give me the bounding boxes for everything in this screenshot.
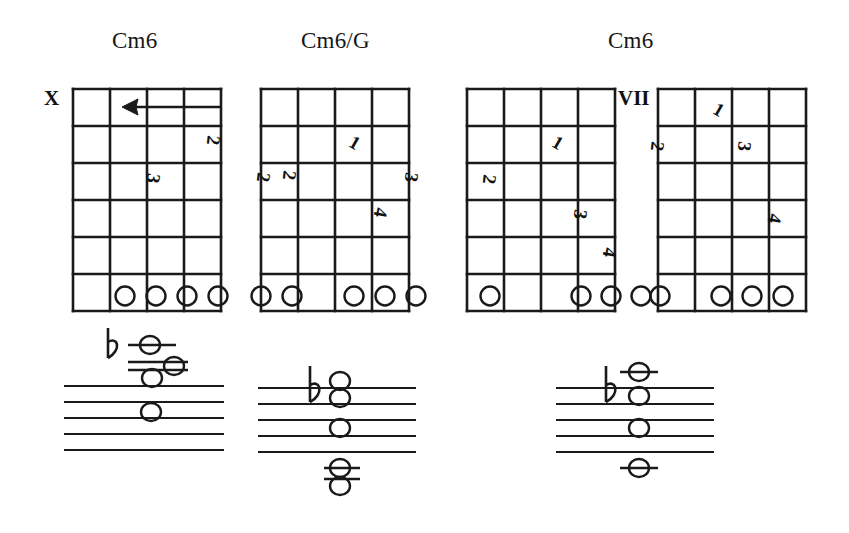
chord-title-1: Cm6 [112, 28, 157, 54]
chord-title-2: Cm6/G [301, 28, 370, 54]
chord-diagram-3-grid[interactable] [466, 88, 616, 314]
chord-diagram-4-grid[interactable] [657, 88, 807, 314]
note-heads-1 [140, 336, 184, 421]
position-marker-vii: VII [618, 86, 650, 111]
fingering-2-3: 3 [402, 172, 422, 183]
chord-diagram-2-grid[interactable] [260, 88, 410, 314]
open-string-circles-4 [651, 287, 793, 306]
open-string-circles-1 [116, 287, 228, 306]
flat-symbol-2 [310, 366, 319, 402]
position-marker-x: X [44, 86, 59, 111]
fingering-3-3: 3 [571, 209, 591, 220]
open-string-circles-2 [252, 287, 426, 306]
barre-arrow-icon [122, 99, 222, 115]
fingering-2-2b: 2 [280, 170, 300, 181]
staff-1 [60, 320, 260, 470]
staff-3 [550, 355, 750, 505]
chord-chart-page: Cm6 Cm6/G Cm6 X VII [0, 0, 849, 533]
note-heads-2 [330, 372, 350, 495]
fingering-1-2: 2 [204, 135, 224, 146]
open-string-circles-3 [481, 287, 651, 306]
fingering-4-3: 3 [735, 141, 755, 152]
staff-2 [252, 355, 452, 505]
flat-symbol-1 [108, 328, 117, 358]
flat-symbol-3 [606, 366, 615, 402]
fingering-4-2: 2 [648, 141, 668, 152]
fingering-3-2: 2 [480, 174, 500, 185]
chord-diagram-1-grid[interactable] [72, 88, 222, 314]
chord-title-3: Cm6 [608, 28, 653, 54]
fingering-2-2a: 2 [254, 172, 274, 183]
